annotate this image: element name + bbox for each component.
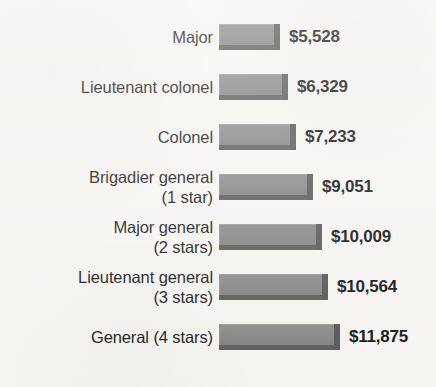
bar-right-bevel bbox=[282, 74, 288, 100]
bar-category-label: General (4 stars) bbox=[0, 312, 213, 362]
bar-category-label: Colonel bbox=[0, 112, 213, 162]
bar-bottom-bevel bbox=[219, 295, 328, 300]
bar-row: Major general(2 stars)$10,009 bbox=[0, 212, 436, 262]
bar-row: General (4 stars)$11,875 bbox=[0, 312, 436, 362]
bar-graphic bbox=[219, 74, 288, 100]
bar-bottom-bevel bbox=[219, 95, 288, 100]
bar-category-label-line2: (3 stars) bbox=[153, 287, 213, 307]
bar-category-label: Major general(2 stars) bbox=[0, 212, 213, 262]
bar-right-bevel bbox=[316, 224, 322, 250]
bar-row: Major$5,528 bbox=[0, 12, 436, 62]
bar-category-label-line1: Lieutenant colonel bbox=[81, 77, 213, 97]
bar-row: Lieutenant general(3 stars)$10,564 bbox=[0, 262, 436, 312]
bar-value-label: $5,528 bbox=[289, 12, 340, 62]
bar-right-bevel bbox=[307, 174, 313, 200]
bar-bottom-bevel bbox=[219, 45, 280, 50]
bar-right-bevel bbox=[274, 24, 280, 50]
bar-graphic bbox=[219, 24, 280, 50]
horizontal-bar-chart: Major$5,528Lieutenant colonel$6,329Colon… bbox=[0, 0, 436, 387]
bar-value-label: $7,233 bbox=[305, 112, 356, 162]
bar-graphic bbox=[219, 224, 322, 250]
bar-right-bevel bbox=[334, 324, 340, 350]
bar-graphic bbox=[219, 124, 296, 150]
bar-category-label-line2: (1 star) bbox=[162, 187, 213, 207]
bar-category-label: Lieutenant colonel bbox=[0, 62, 213, 112]
bar-row: Colonel$7,233 bbox=[0, 112, 436, 162]
bar-category-label-line1: Brigadier general bbox=[89, 167, 213, 187]
bar-graphic bbox=[219, 324, 340, 350]
bar-category-label-line1: Colonel bbox=[158, 127, 213, 147]
bar-category-label-line1: Lieutenant general bbox=[78, 267, 213, 287]
bar-value-label: $11,875 bbox=[349, 312, 408, 362]
bar-bottom-bevel bbox=[219, 195, 313, 200]
bar-value-label: $10,564 bbox=[337, 262, 397, 312]
bar-row: Brigadier general(1 star)$9,051 bbox=[0, 162, 436, 212]
bar-graphic bbox=[219, 274, 328, 300]
bar-value-label: $6,329 bbox=[297, 62, 348, 112]
bar-category-label: Lieutenant general(3 stars) bbox=[0, 262, 213, 312]
bar-category-label: Major bbox=[0, 12, 213, 62]
bar-category-label-line1: General (4 stars) bbox=[91, 327, 213, 347]
bar-value-label: $9,051 bbox=[322, 162, 373, 212]
bar-graphic bbox=[219, 174, 313, 200]
bar-bottom-bevel bbox=[219, 345, 340, 350]
bar-category-label: Brigadier general(1 star) bbox=[0, 162, 213, 212]
bar-category-label-line2: (2 stars) bbox=[153, 237, 213, 257]
bar-right-bevel bbox=[322, 274, 328, 300]
bar-category-label-line1: Major general bbox=[113, 217, 213, 237]
bar-value-label: $10,009 bbox=[331, 212, 391, 262]
bar-row: Lieutenant colonel$6,329 bbox=[0, 62, 436, 112]
bar-category-label-line1: Major bbox=[172, 27, 213, 47]
bar-bottom-bevel bbox=[219, 245, 322, 250]
bar-bottom-bevel bbox=[219, 145, 296, 150]
bar-right-bevel bbox=[290, 124, 296, 150]
